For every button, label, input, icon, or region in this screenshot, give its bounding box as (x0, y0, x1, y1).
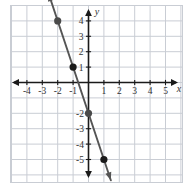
x-tick-label: -3 (38, 86, 46, 96)
y-tick-label: 1 (79, 63, 84, 73)
data-point (85, 110, 92, 117)
x-tick-label: 4 (148, 86, 153, 96)
y-tick-label: 2 (79, 47, 84, 57)
x-tick-label: 1 (102, 86, 107, 96)
y-tick-label: -4 (76, 140, 84, 150)
y-tick-label: -5 (76, 155, 84, 165)
y-tick-label: 4 (79, 16, 84, 26)
x-tick-label: 5 (163, 86, 168, 96)
data-point (54, 17, 61, 24)
graph-canvas: -4-3-2-112345 4321-2-3-4-5 x y (0, 0, 190, 191)
y-tick-label: 3 (79, 32, 84, 42)
data-point (100, 156, 107, 163)
data-point (70, 64, 77, 71)
x-axis-name-label: x (176, 83, 182, 94)
x-tick-label: 3 (132, 86, 137, 96)
coordinate-plane-graph: -4-3-2-112345 4321-2-3-4-5 x y (0, 0, 190, 191)
y-axis-name-label: y (94, 6, 100, 17)
x-tick-label: -2 (54, 86, 62, 96)
y-tick-label: -3 (76, 124, 84, 134)
x-tick-label: -1 (69, 86, 77, 96)
y-tick-label: -2 (76, 109, 84, 119)
x-tick-label: 2 (117, 86, 122, 96)
x-tick-label: -4 (23, 86, 31, 96)
